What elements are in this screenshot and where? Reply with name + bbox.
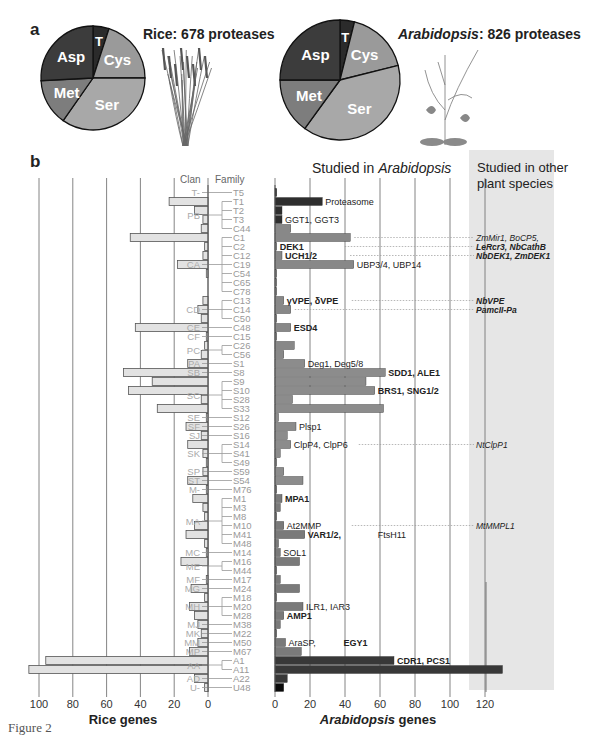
- arabidopsis-bar: [275, 504, 280, 512]
- rice-axis-tick: 100: [30, 698, 48, 710]
- rice-bar: [29, 666, 208, 674]
- rice-bar: [205, 243, 208, 251]
- studied-gene-label: UCH1/2: [285, 251, 317, 261]
- arabidopsis-bar: [275, 468, 284, 476]
- clan-label: SK: [187, 448, 200, 459]
- clan-label: PC: [187, 345, 200, 356]
- studied-gene-label: ESD4: [294, 323, 318, 333]
- arabidopsis-bar: [275, 441, 291, 449]
- arabidopsis-bar: [275, 414, 279, 422]
- other-species-header-line2: plant species: [477, 176, 553, 191]
- arabidopsis-bar: [275, 306, 291, 314]
- clan-group-mp: MP: [186, 646, 232, 657]
- arabidopsis-axis-tick: 60: [374, 698, 386, 710]
- arabidopsis-bar: [275, 477, 303, 485]
- studied-gene-label: ClpP4, ClpP6: [294, 440, 348, 450]
- rice-bar: [205, 342, 208, 350]
- pie-label-t: T: [341, 30, 349, 45]
- clan-group-ca: CA: [187, 238, 232, 292]
- arabidopsis-bar: [275, 522, 284, 530]
- rice-bar: [201, 351, 208, 359]
- clan-label: SB: [187, 367, 200, 378]
- arabidopsis-axis-label: Arabidopsis genes: [319, 712, 436, 727]
- other-species-gene-label: NtClpP1: [476, 440, 508, 450]
- clan-label: T-: [192, 187, 200, 198]
- clan-label: MP: [186, 646, 200, 657]
- clan-group-sk: SK: [187, 445, 232, 463]
- clan-label: SJ: [189, 430, 200, 441]
- rice-bar: [203, 252, 208, 260]
- arabidopsis-bar: [275, 360, 305, 368]
- arabidopsis-bar: [275, 216, 282, 224]
- arabidopsis-axis-tick: 0: [272, 698, 278, 710]
- rice-axis-label: Rice genes: [89, 712, 158, 727]
- rice-plant-illustration: [162, 48, 212, 146]
- arabidopsis-bar: [275, 495, 282, 503]
- rice-bar: [152, 378, 208, 386]
- arabidopsis-axis-tick: 20: [304, 698, 316, 710]
- pie-label-met: Met: [54, 84, 80, 101]
- studied-gene-label: BRS1, SNG1/2: [378, 386, 439, 396]
- family-row-s8: S8SDD1, ALE1: [124, 367, 440, 378]
- clan-label: MC: [185, 547, 200, 558]
- protease-figure: TCysSerMetAspTCysSerMetAsp ClanFamilyStu…: [0, 0, 589, 743]
- clan-group-cf: CF: [187, 331, 232, 342]
- pie-label-asp: Asp: [301, 46, 329, 63]
- family-header: Family: [215, 174, 244, 185]
- studied-gene-label: GGT1, GGT3: [285, 215, 339, 225]
- rice-bar: [186, 531, 208, 539]
- rice-bar: [201, 315, 208, 323]
- pie-charts: TCysSerMetAspTCysSerMetAsp: [41, 20, 400, 140]
- arabidopsis-bar: [275, 675, 287, 683]
- pie-label-met: Met: [296, 87, 322, 104]
- clan-label: SC: [187, 390, 200, 401]
- arabidopsis-bar: [275, 603, 303, 611]
- arabidopsis-bar: [275, 549, 280, 557]
- studied-gene-label: ILR1, IAR3: [306, 602, 350, 612]
- rice-bar: [205, 513, 208, 521]
- arabidopsis-axis-tick: 40: [339, 698, 351, 710]
- other-species-gene-label: NbDEK1, ZmDEK1: [476, 251, 550, 261]
- clan-group-udash: U-: [190, 682, 232, 693]
- rice-bar: [205, 594, 208, 602]
- arabidopsis-bar: [275, 207, 282, 215]
- arabidopsis-plant-illustration: [420, 50, 478, 146]
- arabidopsis-bar: [275, 684, 284, 692]
- pie-label-ser: Ser: [347, 100, 371, 117]
- rice-axis-tick: 20: [168, 698, 180, 710]
- arabidopsis-bar: [275, 234, 350, 242]
- studied-gene-label: Plsp1: [299, 422, 322, 432]
- arabidopsis-axis-tick: 120: [476, 698, 494, 710]
- family-row-m41: M41VAR1/2,FtsH11: [186, 529, 406, 540]
- arabidopsis-bar: [275, 612, 284, 620]
- arabidopsis-bar: [275, 432, 287, 440]
- clan-label: MH: [185, 601, 200, 612]
- clan-group-mdash: M-: [189, 484, 232, 495]
- pie-label-cys: Cys: [351, 46, 379, 63]
- other-species-gene-label: PamcII-Pa: [476, 305, 517, 315]
- arabidopsis-bar: [275, 405, 384, 413]
- studied-gene-label: SDD1, ALE1: [388, 368, 440, 378]
- arabidopsis-bar: [275, 657, 394, 665]
- pie-label-cys: Cys: [104, 51, 132, 68]
- arabidopsis-bar: [275, 369, 385, 377]
- family-row-s9: S9: [152, 376, 366, 387]
- clan-label: M-: [189, 484, 200, 495]
- rice-bar: [203, 216, 208, 224]
- arabidopsis-bar: [275, 531, 305, 539]
- arabidopsis-bar: [275, 621, 280, 629]
- arabidopsis-bar: [275, 585, 300, 593]
- rice-bar: [203, 297, 208, 305]
- arabidopsis-bar: [275, 378, 366, 386]
- clan-label: CD: [186, 304, 200, 315]
- arabidopsis-bar: [275, 576, 280, 584]
- bar-chart: ClanFamilyStudied in ArabidopsisStudied …: [29, 150, 569, 727]
- clan-header: Clan: [180, 174, 201, 185]
- family-row-c44: C44: [201, 223, 291, 234]
- other-species-panel: [469, 150, 554, 690]
- studied-gene-label-2: EGY1: [344, 638, 368, 648]
- rice-axis-tick: 60: [100, 698, 112, 710]
- arabidopsis-bar: [275, 324, 291, 332]
- arabidopsis-bar: [275, 351, 284, 359]
- arabidopsis-axis-tick: 80: [409, 698, 421, 710]
